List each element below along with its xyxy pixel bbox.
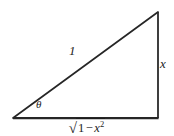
angle-theta-label: θ bbox=[36, 99, 41, 110]
radicand: 1−x2 bbox=[76, 118, 105, 135]
opposite-side-label: x bbox=[160, 57, 166, 70]
radicand-exponent: 2 bbox=[100, 119, 104, 129]
triangle-side-hypotenuse bbox=[13, 12, 158, 118]
right-triangle-figure: 1 x θ √1−x2 bbox=[0, 0, 174, 136]
radicand-minus-sign: − bbox=[84, 121, 94, 135]
adjacent-side-label: √1−x2 bbox=[0, 118, 174, 136]
triangle-drawing bbox=[0, 0, 174, 136]
hypotenuse-length-label: 1 bbox=[69, 44, 76, 57]
square-root-expression: √1−x2 bbox=[69, 118, 105, 136]
